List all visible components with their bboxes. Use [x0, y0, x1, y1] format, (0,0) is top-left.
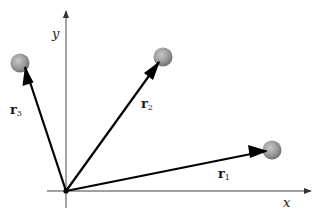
particle-1: [263, 141, 282, 160]
vector-r3: [23, 66, 67, 191]
vector-label-r3: r3: [10, 102, 22, 118]
origin-point: [63, 188, 68, 193]
vector-label-r1: r1: [218, 166, 230, 182]
vector-r2: [66, 61, 160, 191]
position-vectors-diagram: y x r3 r2 r1: [0, 0, 322, 217]
y-axis-label: y: [51, 26, 60, 41]
particle-2: [154, 48, 173, 67]
x-axis-label: x: [283, 195, 291, 210]
vector-label-r2: r2: [141, 96, 153, 112]
vector-r1: [66, 145, 268, 191]
